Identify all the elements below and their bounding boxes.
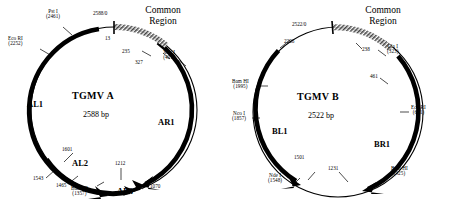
site-label-cla-i: Cla I (323) — [387, 44, 399, 55]
coordinate-327: 327 — [135, 60, 143, 65]
plasmid-map-tgmv-b: 2522/0 2206 238 461 1231 1501 Common Reg… — [228, 0, 456, 217]
site-label-xba-i: Xba I (401) — [163, 50, 175, 61]
common-region-label: Common Region — [128, 5, 198, 27]
map-title: TGMV A — [72, 91, 114, 102]
origin-label: 2588/0 — [93, 11, 107, 16]
orf-label-br1: BR1 — [374, 140, 390, 149]
site-label-bam-hi-1995: Bam HI (1995) — [232, 79, 249, 90]
map-size-label: 2522 bp — [308, 112, 334, 120]
site-label-pst-i: Pst I (2461) — [46, 9, 60, 20]
orf-arc-bl1 — [256, 51, 296, 182]
coordinate-238: 238 — [362, 47, 370, 52]
orf-label-al2: AL2 — [72, 159, 88, 168]
coordinate-2206: 2206 — [284, 39, 294, 44]
site-label-nde-i: Nde I (1548) — [268, 173, 282, 184]
site-label-bam-hi-925: Bam HI (925) — [391, 166, 408, 177]
coordinate-1543: 1543 — [33, 176, 43, 181]
common-region-arc — [114, 27, 167, 46]
coordinate-235: 235 — [122, 49, 130, 54]
common-region-label: Common Region — [348, 5, 418, 27]
orf-label-bl1: BL1 — [272, 127, 288, 136]
coordinate-1465: 1465 — [56, 183, 66, 188]
coordinate-1601: 1601 — [62, 147, 72, 152]
site-label-eco-ri: Eco RI (2252) — [8, 36, 23, 47]
coordinate-1212: 1212 — [115, 161, 125, 166]
map-size-label: 2588 bp — [83, 111, 109, 119]
origin-label: 2522/0 — [292, 22, 306, 27]
site-label-nco-i: Nco I (1857) — [232, 111, 246, 122]
coordinate-461: 461 — [370, 74, 378, 79]
figure-canvas: Pst I (2461) Eco RI (2252) Xba I (401) B… — [0, 0, 456, 217]
coordinate-1501: 1501 — [294, 155, 304, 160]
orf-label-al1: AL1 — [27, 100, 43, 109]
site-label-eco-ri: Eco RI (651) — [411, 105, 426, 116]
coordinate-13: 13 — [105, 36, 110, 41]
orf-label-ar1: AR1 — [158, 118, 175, 127]
map-title: TGMV B — [297, 92, 339, 103]
orf-label-al3: AL3 — [117, 187, 133, 196]
origin-tick — [332, 21, 333, 34]
coordinate-1070: 1070 — [150, 184, 160, 189]
orf-arc-ar1 — [146, 43, 192, 185]
coordinate-1231: 1231 — [328, 166, 338, 171]
plasmid-map-tgmv-a: Pst I (2461) Eco RI (2252) Xba I (401) B… — [0, 0, 228, 217]
site-label-bam-hi: Bam HI (1357) — [71, 186, 88, 197]
